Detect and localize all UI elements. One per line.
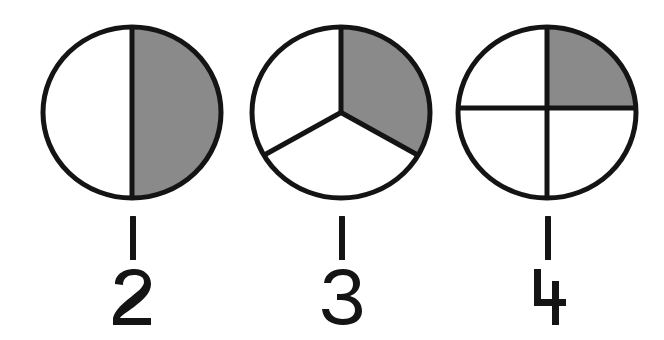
digit-one-glyph-icon [122, 216, 144, 260]
fraction-figure [0, 0, 664, 340]
slice-unshaded-one-half [43, 27, 132, 198]
fraction-label-one-third [237, 216, 447, 321]
slice-shaded-one-half [132, 27, 221, 198]
fraction-label-one-quarter [443, 216, 653, 321]
circle-diagram-one-third [245, 20, 437, 205]
numerator-one-quarter [537, 216, 559, 260]
pie-svg-one-quarter [451, 20, 643, 205]
digit-four-glyph-icon [525, 269, 571, 325]
denominator-one-third [319, 269, 365, 325]
digit-three-glyph-icon [319, 269, 365, 325]
fraction-group-one-third [237, 0, 447, 340]
digit-two-glyph-icon [110, 269, 156, 325]
pie-svg-one-third [245, 20, 437, 205]
numerator-one-half [122, 216, 144, 260]
denominator-one-half [110, 269, 156, 325]
fraction-label-one-half [28, 216, 238, 321]
denominator-one-quarter [525, 269, 571, 325]
digit-one-glyph-icon [331, 216, 353, 260]
pie-svg-one-half [36, 20, 228, 205]
numerator-one-third [331, 216, 353, 260]
circle-diagram-one-half [36, 20, 228, 205]
circle-diagram-one-quarter [451, 20, 643, 205]
fraction-group-one-half [28, 0, 238, 340]
digit-one-glyph-icon [537, 216, 559, 260]
fraction-group-one-quarter [443, 0, 653, 340]
